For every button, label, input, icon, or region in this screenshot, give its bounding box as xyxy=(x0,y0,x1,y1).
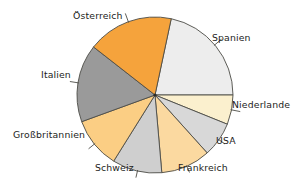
pie-chart: Österreich Spanien Niederlande USA Frank… xyxy=(0,0,301,187)
pie-label-frankreich: Frankreich xyxy=(178,163,228,172)
pie-leader-line xyxy=(70,82,79,83)
pie-label-usa: USA xyxy=(216,136,236,145)
pie-label-niederlande: Niederlande xyxy=(232,100,290,109)
pie-label-grossbritannien: Großbritannien xyxy=(13,130,85,139)
pie-label-italien: Italien xyxy=(41,70,71,79)
pie-leader-line xyxy=(89,143,96,148)
pie-label-oesterreich: Österreich xyxy=(73,11,123,20)
pie-chart-canvas xyxy=(0,0,301,187)
pie-label-spanien: Spanien xyxy=(212,33,251,42)
pie-leader-line xyxy=(125,13,128,22)
pie-center-dot xyxy=(153,93,156,96)
pie-label-schweiz: Schweiz xyxy=(95,163,134,172)
